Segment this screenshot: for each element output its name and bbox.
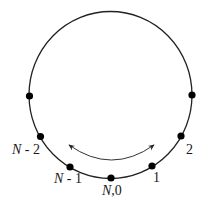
node-label-n-zero: N,0	[101, 183, 122, 198]
label-suffix: 1	[153, 170, 160, 185]
ring-circle	[29, 12, 192, 179]
node-dot-n-zero	[107, 174, 114, 181]
label-suffix: - 1	[63, 171, 82, 186]
node-dot-left-unlabeled	[26, 92, 33, 99]
node-dot-n-minus-1	[66, 163, 73, 170]
label-suffix: - 2	[21, 142, 40, 157]
label-group: N - 2N - 1N,012	[11, 142, 193, 198]
ring-diagram: N - 2N - 1N,012	[0, 0, 202, 203]
label-variable: N	[53, 171, 64, 186]
node-dot-one	[148, 162, 155, 169]
label-variable: N	[11, 142, 22, 157]
node-label-two: 2	[186, 142, 193, 157]
node-label-n-minus-2: N - 2	[11, 142, 40, 157]
label-variable: N	[101, 183, 112, 198]
node-label-one: 1	[153, 170, 160, 185]
node-dot-two	[177, 132, 184, 139]
bidirectional-arrow	[69, 145, 154, 160]
label-suffix: 2	[186, 142, 193, 157]
label-suffix: ,0	[111, 183, 122, 198]
node-dot-n-minus-2	[37, 133, 44, 140]
node-dot-right-unlabeled	[188, 91, 195, 98]
node-label-n-minus-1: N - 1	[53, 171, 82, 186]
node-group	[26, 91, 196, 181]
